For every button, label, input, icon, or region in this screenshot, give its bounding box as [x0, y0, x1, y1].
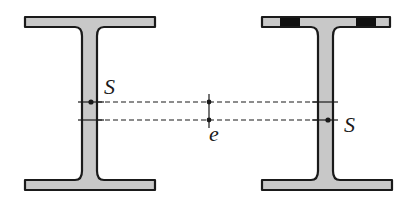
- left-centroid-label: S: [104, 74, 115, 99]
- left-centroid-point: [88, 99, 93, 104]
- right-i-beam: [262, 17, 392, 190]
- bolt-hole-left: [280, 18, 300, 26]
- eccentricity-upper-point: [207, 100, 212, 105]
- i-beam-eccentricity-diagram: S S e: [0, 0, 412, 201]
- bolt-hole-right: [356, 18, 376, 26]
- right-centroid-point: [325, 117, 330, 122]
- right-centroid-label: S: [344, 112, 355, 137]
- reference-lines: [78, 94, 338, 128]
- eccentricity-label: e: [209, 121, 219, 146]
- right-i-beam-outline: [262, 17, 392, 190]
